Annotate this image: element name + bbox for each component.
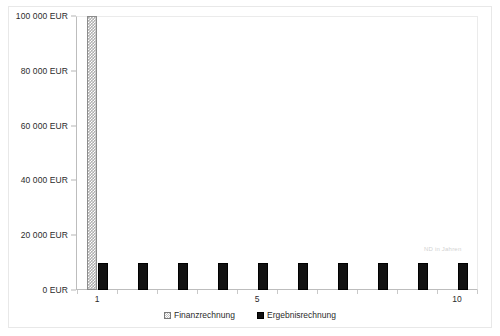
- x-axis-tick-mark: [117, 290, 118, 294]
- bar-ergebnisrechnung-4[interactable]: [218, 263, 228, 290]
- y-axis-tick-label: 40 000 EUR: [21, 175, 68, 185]
- x-axis-tick-mark: [277, 290, 278, 294]
- bar-ergebnisrechnung-9[interactable]: [418, 263, 428, 290]
- bars-layer: [77, 16, 477, 290]
- x-axis-tick-mark: [157, 290, 158, 294]
- x-axis-tick-mark: [317, 290, 318, 294]
- y-axis-tick-mark: [71, 235, 76, 236]
- legend-label-finanzrechnung: Finanzrechnung: [174, 310, 235, 320]
- y-axis-tick-mark: [71, 70, 76, 71]
- x-axis-tick-mark: [197, 290, 198, 294]
- x-axis-tick-mark: [357, 290, 358, 294]
- y-axis-tick-label: 60 000 EUR: [21, 121, 68, 131]
- x-axis-tick-label: 5: [255, 294, 260, 304]
- bar-ergebnisrechnung-8[interactable]: [378, 263, 388, 290]
- legend-swatch-icon-ergebnisrechnung: [257, 312, 264, 319]
- bar-ergebnisrechnung-3[interactable]: [178, 263, 188, 290]
- x-axis-tick-mark: [477, 290, 478, 294]
- y-axis-tick-label: 0 EUR: [42, 285, 68, 295]
- y-axis-tick-label: 20 000 EUR: [21, 230, 68, 240]
- x-axis-tick-mark: [397, 290, 398, 294]
- bar-ergebnisrechnung-7[interactable]: [338, 263, 348, 290]
- bar-ergebnisrechnung-10[interactable]: [458, 263, 468, 290]
- y-axis-tick-mark: [71, 125, 76, 126]
- bar-finanzrechnung-1[interactable]: [87, 16, 97, 290]
- bar-ergebnisrechnung-2[interactable]: [138, 263, 148, 290]
- legend-item-ergebnisrechnung[interactable]: Ergebnisrechnung: [257, 310, 336, 320]
- x-axis-tick-mark: [437, 290, 438, 294]
- y-axis: 0 EUR20 000 EUR40 000 EUR60 000 EUR80 00…: [0, 0, 76, 306]
- bar-ergebnisrechnung-5[interactable]: [258, 263, 268, 290]
- legend-item-finanzrechnung[interactable]: Finanzrechnung: [164, 310, 235, 320]
- y-axis-tick-label: 100 000 EUR: [16, 11, 68, 21]
- y-axis-tick-mark: [71, 290, 76, 291]
- x-axis-tick-mark: [237, 290, 238, 294]
- legend-swatch-icon-finanzrechnung: [164, 312, 171, 319]
- bar-ergebnisrechnung-1[interactable]: [98, 263, 108, 290]
- x-axis-tick-mark: [77, 290, 78, 294]
- chart-legend: Finanzrechnung Ergebnisrechnung: [0, 310, 500, 320]
- y-axis-tick-mark: [71, 180, 76, 181]
- x-axis-tick-label: 1: [95, 294, 100, 304]
- y-axis-tick-mark: [71, 16, 76, 17]
- y-axis-tick-label: 80 000 EUR: [21, 66, 68, 76]
- x-axis-tick-label: 10: [452, 294, 461, 304]
- chart-container: 0 EUR20 000 EUR40 000 EUR60 000 EUR80 00…: [0, 0, 500, 336]
- legend-label-ergebnisrechnung: Ergebnisrechnung: [267, 310, 336, 320]
- bar-ergebnisrechnung-6[interactable]: [298, 263, 308, 290]
- x-axis-title: ND in Jahren: [424, 246, 461, 252]
